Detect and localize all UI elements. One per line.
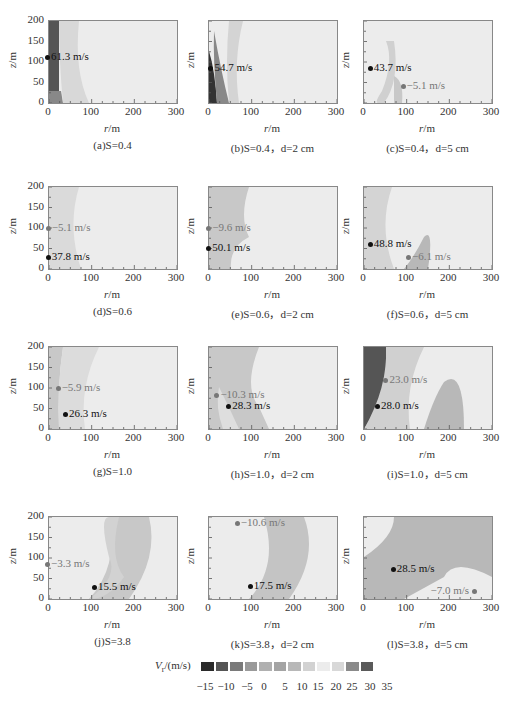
marker-dot-icon: [214, 393, 219, 398]
y-tick-label: 200: [22, 509, 44, 521]
panel-caption-b: (b)S=0.4，d=2 cm: [187, 139, 358, 155]
marker-dot-icon: [406, 255, 411, 260]
y-tick-label: 200: [22, 13, 44, 25]
x-axis-label: r/m: [397, 288, 457, 300]
x-axis-label: r/m: [397, 122, 457, 134]
marker-dot-icon: [45, 55, 50, 60]
annotation-min-f: −6.1 m/s: [406, 250, 451, 262]
colorbar-swatch: [331, 661, 346, 672]
annotation-max-h: 28.3 m/s: [226, 399, 270, 411]
y-axis-label: z/m: [6, 218, 18, 234]
x-tick-label: 100: [76, 271, 106, 283]
colorbar-swatch: [316, 661, 331, 672]
y-axis-label: z/m: [184, 218, 196, 234]
x-tick-label: 300: [321, 431, 351, 443]
contour-field: [364, 347, 492, 429]
x-tick-label: 200: [433, 601, 463, 613]
x-tick-label: 0: [33, 431, 63, 443]
x-tick-label: 100: [391, 105, 421, 117]
x-tick-label: 200: [278, 271, 308, 283]
y-tick-label: 50: [22, 75, 44, 87]
x-tick-label: 300: [161, 271, 191, 283]
x-axis-label: r/m: [242, 122, 302, 134]
panel-caption-k: (k)S=3.8，d=2 cm: [187, 635, 358, 651]
panel-caption-a: (a)S=0.4: [27, 139, 198, 151]
y-axis-label: z/m: [184, 378, 196, 394]
x-tick-label: 0: [33, 601, 63, 613]
y-tick-label: 50: [22, 241, 44, 253]
x-tick-label: 100: [236, 105, 266, 117]
y-tick-label: 150: [22, 360, 44, 372]
x-tick-label: 200: [278, 601, 308, 613]
annotation-max-l: 28.5 m/s: [391, 562, 435, 574]
x-tick-label: 0: [193, 105, 223, 117]
marker-dot-icon: [235, 521, 240, 526]
colorbar-tick-label: 35: [377, 680, 397, 692]
x-axis-label: r/m: [397, 618, 457, 630]
panel-caption-g: (g)S=1.0: [27, 465, 198, 477]
colorbar: [200, 661, 374, 672]
panel-caption-h: (h)S=1.0，d=2 cm: [187, 465, 358, 481]
x-tick-label: 200: [433, 105, 463, 117]
x-tick-label: 0: [33, 105, 63, 117]
annotation-min-g: −5.9 m/s: [56, 381, 101, 393]
x-tick-label: 100: [391, 601, 421, 613]
colorbar-swatch: [244, 661, 259, 672]
annotation-min-i: 23.0 m/s: [383, 373, 427, 385]
x-tick-label: 300: [476, 601, 506, 613]
x-tick-label: 100: [236, 431, 266, 443]
x-tick-label: 100: [391, 271, 421, 283]
x-tick-label: 200: [118, 105, 148, 117]
y-axis-label: z/m: [6, 52, 18, 68]
y-axis-label: z/m: [339, 378, 351, 394]
y-axis-label: z/m: [6, 378, 18, 394]
annotation-min-l: −7.0 m/s: [430, 584, 478, 596]
annotation-max-i: 28.0 m/s: [375, 399, 419, 411]
panel-caption-j: (j)S=3.8: [27, 635, 198, 647]
colorbar-swatch: [287, 661, 302, 672]
colorbar-swatch: [302, 661, 317, 672]
colorbar-swatch: [345, 661, 360, 672]
x-axis-label: r/m: [397, 448, 457, 460]
x-tick-label: 300: [476, 271, 506, 283]
annotation-max-f: 48.8 m/s: [368, 237, 412, 249]
colorbar-tick-label: −10: [216, 680, 236, 692]
colorbar-swatch: [215, 661, 230, 672]
annotation-max-e: 50.1 m/s: [206, 241, 250, 253]
annotation-max-b: 54.7 m/s: [208, 61, 252, 73]
colorbar-swatch: [258, 661, 273, 672]
y-tick-label: 100: [22, 380, 44, 392]
marker-dot-icon: [375, 404, 380, 409]
annotation-min-e: −9.6 m/s: [206, 221, 251, 233]
marker-dot-icon: [63, 412, 68, 417]
y-tick-label: 200: [22, 179, 44, 191]
annotation-max-g: 26.3 m/s: [63, 407, 107, 419]
y-tick-label: 100: [22, 550, 44, 562]
annotation-max-d: 37.8 m/s: [46, 250, 90, 262]
marker-dot-icon: [46, 226, 51, 231]
x-axis-label: r/m: [242, 448, 302, 460]
x-tick-label: 300: [476, 431, 506, 443]
x-tick-label: 0: [348, 431, 378, 443]
x-tick-label: 0: [348, 601, 378, 613]
x-tick-label: 200: [278, 105, 308, 117]
y-tick-label: 50: [22, 401, 44, 413]
y-axis-label: z/m: [184, 52, 196, 68]
x-axis-label: r/m: [82, 448, 142, 460]
x-tick-label: 0: [33, 271, 63, 283]
colorbar-tick-label: 0: [254, 680, 274, 692]
y-tick-label: 150: [22, 34, 44, 46]
x-tick-label: 300: [161, 105, 191, 117]
y-axis-label: z/m: [6, 548, 18, 564]
y-tick-label: 100: [22, 220, 44, 232]
colorbar-tick-label: 25: [342, 680, 362, 692]
annotation-min-c: −5.1 m/s: [401, 79, 446, 91]
annotation-min-d: −5.1 m/s: [46, 221, 91, 233]
panel-caption-c: (c)S=0.4，d=5 cm: [342, 139, 513, 155]
colorbar-tick-label: 15: [308, 680, 328, 692]
y-tick-label: 100: [22, 54, 44, 66]
x-axis-label: r/m: [242, 618, 302, 630]
marker-dot-icon: [206, 226, 211, 231]
panel-caption-d: (d)S=0.6: [27, 305, 198, 317]
x-axis-label: r/m: [82, 288, 142, 300]
